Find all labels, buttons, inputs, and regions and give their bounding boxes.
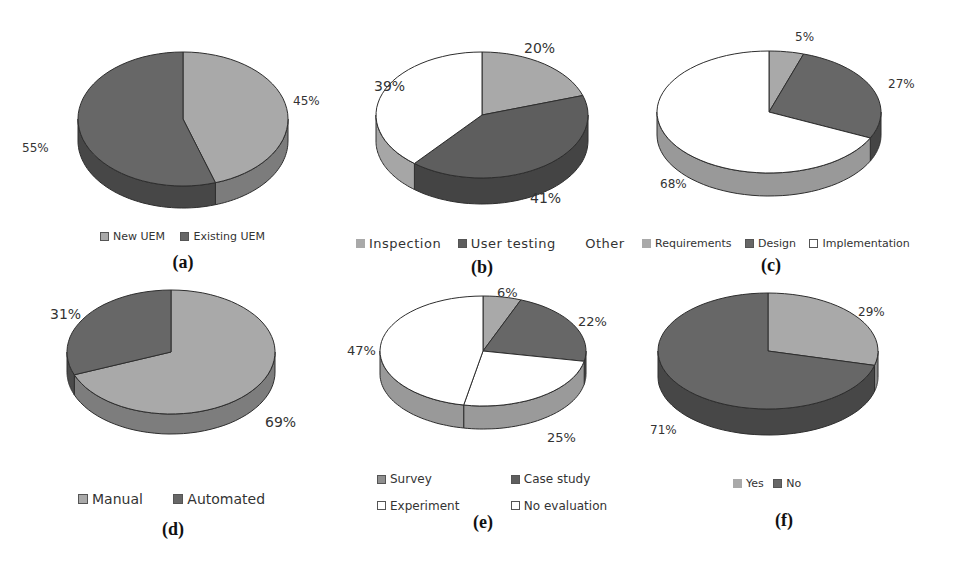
- legend-item-manual: Manual: [78, 491, 143, 507]
- pie-label-c-1: 27%: [888, 77, 915, 91]
- legend-item-no-evaluation: No evaluation: [511, 493, 607, 519]
- legend-item-user-testing: User testing: [458, 236, 556, 251]
- pie-chart-d: 69%31%: [50, 290, 296, 434]
- legend-swatch-icon: [733, 479, 742, 488]
- pie-label-e-0: 6%: [497, 285, 518, 300]
- pie-label-e-2: 25%: [547, 430, 576, 445]
- legend-item-automated: Automated: [173, 491, 265, 507]
- pie-label-d-0: 69%: [265, 414, 296, 430]
- pie-label-b-0: 20%: [524, 40, 555, 56]
- pie-label-e-3: 47%: [347, 343, 376, 358]
- legend-e: Survey Case study Experiment No evaluati…: [377, 466, 619, 519]
- legend-b: Inspection User testing Other: [356, 236, 637, 251]
- caption-f: (f): [775, 510, 793, 531]
- legend-swatch-icon: [511, 475, 520, 484]
- pie-chart-a: 45%55%: [22, 52, 320, 208]
- pie-label-f-0: 29%: [858, 305, 885, 319]
- pie-label-f-1: 71%: [650, 423, 677, 437]
- caption-c: (c): [761, 255, 781, 276]
- legend-swatch-icon: [180, 232, 189, 241]
- legend-swatch-icon: [745, 239, 754, 248]
- legend-item-no: No: [773, 477, 801, 490]
- legend-swatch-icon: [377, 501, 386, 510]
- legend-item-inspection: Inspection: [356, 236, 441, 251]
- legend-swatch-icon: [809, 239, 818, 248]
- pie-chart-c: 5%27%68%: [657, 30, 915, 196]
- pie-label-e-1: 22%: [578, 314, 607, 329]
- pie-label-d-1: 31%: [50, 306, 81, 322]
- legend-item-design: Design: [745, 237, 796, 250]
- legend-item-other: Other: [572, 236, 624, 251]
- caption-d: (d): [162, 519, 184, 540]
- pie-label-b-1: 41%: [530, 190, 561, 206]
- pie-chart-b: 20%41%39%: [374, 40, 588, 206]
- figure-panel: 45%55%20%41%39%5%27%68%69%31%6%22%25%47%…: [0, 0, 961, 568]
- pie-label-c-0: 5%: [795, 30, 814, 44]
- legend-swatch-icon: [458, 239, 467, 248]
- legend-swatch-icon: [100, 232, 109, 241]
- legend-f: Yes No: [733, 477, 813, 491]
- legend-swatch-icon: [773, 479, 782, 488]
- legend-swatch-icon: [78, 494, 88, 504]
- legend-swatch-icon: [173, 494, 183, 504]
- legend-item-implementation: Implementation: [809, 237, 909, 250]
- legend-item-yes: Yes: [733, 477, 764, 490]
- pie-label-b-2: 39%: [374, 78, 405, 94]
- legend-swatch-icon: [511, 501, 520, 510]
- legend-c: Requirements Design Implementation: [642, 237, 922, 251]
- legend-swatch-icon: [572, 239, 581, 248]
- legend-d: Manual Automated: [78, 491, 277, 507]
- legend-a: New UEM Existing UEM: [100, 230, 277, 244]
- caption-e: (e): [473, 512, 493, 533]
- pie-chart-f: 29%71%: [650, 293, 885, 437]
- pie-label-a-1: 55%: [22, 141, 49, 155]
- legend-swatch-icon: [377, 475, 386, 484]
- caption-a: (a): [173, 252, 194, 273]
- legend-item-new-uem: New UEM: [100, 230, 165, 243]
- legend-swatch-icon: [642, 239, 651, 248]
- legend-swatch-icon: [356, 239, 365, 248]
- legend-item-requirements: Requirements: [642, 237, 731, 250]
- caption-b: (b): [471, 257, 493, 278]
- legend-item-existing-uem: Existing UEM: [180, 230, 265, 243]
- legend-item-case-study: Case study: [511, 466, 590, 492]
- pie-label-c-2: 68%: [660, 177, 687, 191]
- pie-label-a-0: 45%: [293, 94, 320, 108]
- legend-item-survey: Survey: [377, 466, 495, 492]
- pie-chart-e: 6%22%25%47%: [347, 285, 607, 445]
